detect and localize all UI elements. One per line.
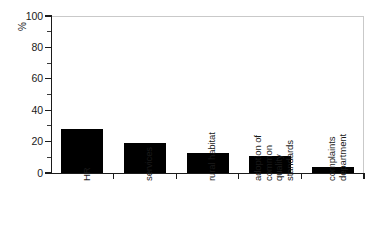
y-axis-tick-label: 80: [0, 42, 43, 53]
y-axis-tick-label: 100: [0, 11, 43, 22]
x-axis-category-label-line: standards: [285, 135, 296, 181]
y-axis-tick-label: 20: [0, 136, 43, 147]
y-axis-tick-label: 40: [0, 105, 43, 116]
y-axis-minor-tick: [47, 94, 51, 95]
x-axis-tick: [301, 174, 302, 179]
y-axis-tick: [45, 172, 51, 173]
y-axis-line: [51, 15, 52, 174]
x-axis-tick: [176, 174, 177, 179]
x-axis-tick: [238, 174, 239, 179]
x-axis-tick: [113, 174, 114, 179]
y-axis-tick: [45, 141, 51, 142]
x-axis-category-label-line: department: [337, 134, 348, 181]
x-axis-category-label: HR: [82, 167, 92, 181]
x-axis-category-label-line: complaints: [327, 134, 338, 181]
y-axis-tick-label: 60: [0, 73, 43, 84]
y-axis-tick: [45, 78, 51, 79]
y-axis-minor-tick: [47, 31, 51, 32]
x-axis-category-label-line: rural habitat: [207, 132, 217, 181]
y-axis-tick-label: 0: [0, 168, 43, 179]
y-axis-tick: [45, 47, 51, 48]
x-axis-category-label-line: services: [144, 147, 154, 181]
y-axis-minor-tick: [47, 63, 51, 64]
x-axis-category-label: services: [144, 147, 154, 181]
bar-chart: % 020406080100 HRservicesrural habitatad…: [0, 0, 384, 246]
y-axis-minor-tick: [47, 157, 51, 158]
y-axis-tick: [45, 110, 51, 111]
y-axis-tick: [45, 15, 51, 16]
x-axis-category-label-line: HR: [82, 167, 92, 181]
x-axis-category-label: adoption ofcommonqualitystandards: [253, 135, 295, 181]
y-axis-minor-tick: [47, 125, 51, 126]
x-axis-category-label: rural habitat: [207, 132, 217, 181]
x-axis-category-label: complaintsdepartment: [327, 134, 348, 181]
y-axis-title: %: [18, 22, 28, 31]
x-axis-tick: [363, 174, 364, 179]
